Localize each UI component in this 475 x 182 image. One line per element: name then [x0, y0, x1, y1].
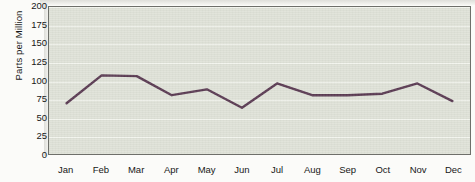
y-tick-200: 200 — [31, 1, 47, 11]
y-tick-100: 100 — [31, 76, 47, 86]
y-tick-0: 0 — [42, 150, 47, 160]
x-tick-jan: Jan — [58, 164, 73, 175]
y-tick-25: 25 — [36, 132, 47, 142]
scan-edge-top — [40, 0, 475, 5]
x-tick-nov: Nov — [410, 164, 427, 175]
y-tick-125: 125 — [31, 57, 47, 67]
x-tick-feb: Feb — [93, 164, 109, 175]
chart-figure: Parts per Million 0255075100125150175200… — [0, 0, 475, 182]
line-series-parts-per-million — [49, 7, 470, 154]
x-tick-mar: Mar — [128, 164, 144, 175]
y-tick-175: 175 — [31, 20, 47, 30]
x-tick-jul: Jul — [271, 164, 283, 175]
x-tick-dec: Dec — [445, 164, 462, 175]
x-tick-sep: Sep — [339, 164, 356, 175]
y-axis-tick-labels: 0255075100125150175200 — [13, 0, 47, 160]
x-tick-may: May — [198, 164, 216, 175]
x-tick-aug: Aug — [304, 164, 321, 175]
y-tick-150: 150 — [31, 39, 47, 49]
y-tick-75: 75 — [36, 94, 47, 104]
x-tick-oct: Oct — [375, 164, 390, 175]
plot-area — [48, 6, 471, 155]
x-tick-jun: Jun — [234, 164, 249, 175]
y-tick-50: 50 — [36, 113, 47, 123]
x-tick-apr: Apr — [164, 164, 179, 175]
x-axis-tick-labels: JanFebMarAprMayJunJulAugSepOctNovDec — [48, 164, 472, 180]
